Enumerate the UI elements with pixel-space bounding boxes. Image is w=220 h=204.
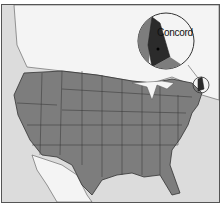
city-label-concord: Concord bbox=[157, 27, 193, 38]
map-frame: Concord bbox=[1, 4, 220, 203]
